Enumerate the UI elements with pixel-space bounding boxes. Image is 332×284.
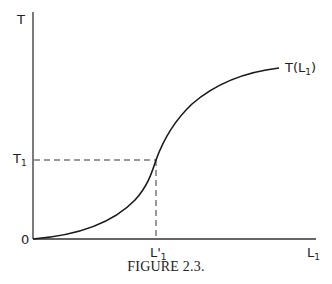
- curve-label: T(L1): [285, 61, 316, 77]
- y-axis-label: T: [17, 13, 25, 26]
- y-tick-label-T1: T1: [13, 152, 27, 168]
- figure-caption: FIGURE 2.3.: [0, 259, 332, 275]
- figure-canvas: [0, 0, 332, 284]
- origin-label: 0: [21, 233, 29, 246]
